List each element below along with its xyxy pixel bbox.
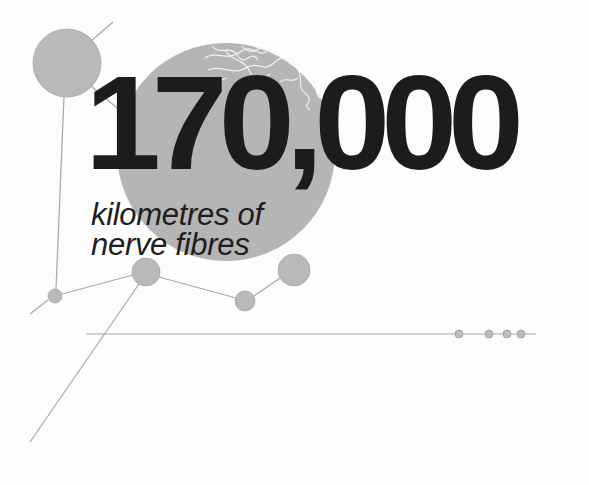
right-node xyxy=(278,254,310,286)
timeline-dot xyxy=(455,330,463,338)
left-link-line xyxy=(62,275,133,294)
lower-node xyxy=(235,291,255,311)
timeline-dot xyxy=(503,330,511,338)
center-link-line xyxy=(159,277,236,298)
headline-subtitle: kilometres of nerve fibres xyxy=(91,200,263,260)
long-diagonal-line xyxy=(30,284,139,442)
small-left-node xyxy=(48,289,62,303)
subtitle-line-2: nerve fibres xyxy=(91,230,263,260)
timeline-dot xyxy=(485,330,493,338)
vertical-connector-line xyxy=(56,97,64,289)
center-node xyxy=(132,258,160,286)
right-link-line xyxy=(254,278,280,296)
timeline-dot xyxy=(517,330,525,338)
subtitle-line-1: kilometres of xyxy=(91,200,263,230)
headline-number: 170,000 xyxy=(85,56,515,190)
left-tail-line xyxy=(30,300,48,314)
top-connector-line xyxy=(91,22,113,41)
